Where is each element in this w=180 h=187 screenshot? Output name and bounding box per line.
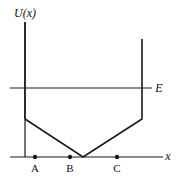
potential-curve: [25, 39, 142, 157]
point-b: B: [66, 155, 73, 174]
point-a-label: A: [31, 162, 39, 174]
point-c-label: C: [113, 162, 120, 174]
potential-energy-diagram: U(x) x E A B C: [0, 0, 180, 187]
point-c: C: [113, 155, 120, 174]
energy-label: E: [154, 81, 163, 95]
point-b-label: B: [66, 162, 73, 174]
point-b-dot: [68, 155, 72, 159]
point-a-dot: [33, 155, 37, 159]
x-axis-label: x: [164, 149, 171, 163]
y-axis-label: U(x): [14, 6, 36, 20]
point-c-dot: [115, 155, 119, 159]
point-a: A: [31, 155, 39, 174]
